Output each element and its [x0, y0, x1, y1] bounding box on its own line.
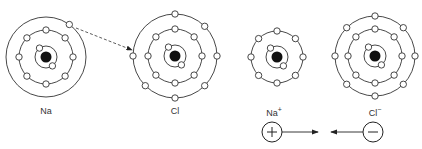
electron	[400, 25, 406, 31]
anion-symbol	[363, 122, 383, 142]
electron	[332, 53, 338, 59]
electron	[300, 54, 306, 60]
electron	[172, 80, 178, 86]
electron	[43, 27, 49, 33]
electron	[202, 83, 208, 89]
electron	[274, 28, 280, 34]
electron	[172, 95, 178, 101]
electron	[70, 54, 76, 60]
atom-na-ion	[248, 28, 306, 86]
atom-na	[6, 17, 86, 97]
electron	[248, 54, 254, 60]
electron	[24, 35, 30, 41]
electron	[391, 72, 397, 78]
electron	[130, 53, 136, 59]
electron	[202, 23, 208, 29]
electron	[16, 54, 22, 60]
electron	[191, 34, 197, 40]
electron	[191, 72, 197, 78]
nucleus	[170, 51, 181, 62]
electron	[142, 83, 148, 89]
nucleus	[370, 51, 381, 62]
electron	[66, 21, 72, 27]
electron	[372, 80, 378, 86]
atom-cl-ion	[332, 13, 418, 99]
electron	[172, 26, 178, 32]
electron	[43, 81, 49, 87]
electron	[153, 72, 159, 78]
electron	[353, 72, 359, 78]
nucleus	[41, 52, 52, 63]
electron	[178, 62, 184, 68]
electron	[280, 63, 286, 69]
electron	[172, 11, 178, 17]
electron	[344, 81, 350, 87]
electron	[365, 44, 371, 50]
electron	[344, 25, 350, 31]
electron	[292, 72, 298, 78]
nucleus	[272, 52, 283, 63]
electron	[214, 53, 220, 59]
label-cl-atom: Cl	[171, 106, 180, 116]
electron	[24, 73, 30, 79]
electron	[372, 26, 378, 32]
electron	[36, 45, 42, 51]
electron	[267, 45, 273, 51]
atom-cl	[130, 11, 220, 101]
electron	[199, 53, 205, 59]
electron	[145, 53, 151, 59]
electron	[153, 34, 159, 40]
electron	[372, 13, 378, 19]
electron	[292, 35, 298, 41]
label-cl-ion: Cl−	[369, 106, 382, 118]
electron	[399, 53, 405, 59]
electron	[372, 93, 378, 99]
electron	[400, 81, 406, 87]
label-na-ion: Na+	[266, 106, 282, 118]
electron	[274, 80, 280, 86]
electron	[49, 63, 55, 69]
electron	[345, 53, 351, 59]
electron	[255, 35, 261, 41]
electron	[255, 72, 261, 78]
ionic-bond-diagram	[0, 0, 422, 149]
electron	[412, 53, 418, 59]
cation-symbol	[262, 122, 282, 142]
electron	[378, 62, 384, 68]
electron	[391, 34, 397, 40]
electron	[353, 34, 359, 40]
electron	[62, 73, 68, 79]
electron	[165, 44, 171, 50]
electron	[62, 35, 68, 41]
label-na-atom: Na	[40, 106, 52, 116]
